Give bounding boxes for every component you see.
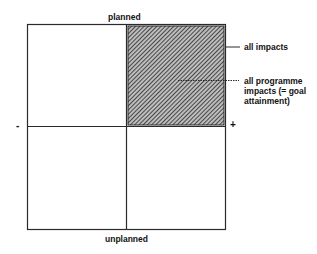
- impact-matrix-diagram: [0, 0, 317, 254]
- programme-impacts-hatched-quadrant: [128, 26, 224, 125]
- programme-impacts-line-2: impacts (= goal: [244, 86, 306, 96]
- programme-impacts-line-1: all programme: [244, 76, 306, 86]
- positive-sign: +: [230, 120, 236, 130]
- programme-impacts-line-3: attainment): [244, 96, 306, 106]
- unplanned-label: unplanned: [105, 234, 148, 244]
- all-impacts-label: all impacts: [244, 42, 288, 52]
- planned-label: planned: [108, 12, 141, 22]
- programme-impacts-label: all programme impacts (= goal attainment…: [244, 76, 306, 106]
- negative-sign: -: [16, 121, 19, 131]
